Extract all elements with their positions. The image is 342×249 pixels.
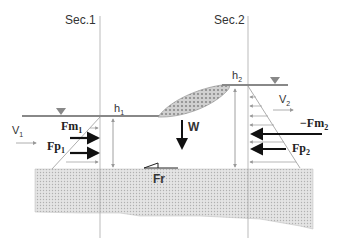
friction-label: Fr: [153, 172, 165, 186]
h2-label: h2: [232, 69, 242, 83]
fm2-label: −Fm2: [300, 116, 328, 132]
v1-label: V1: [12, 124, 23, 138]
pressure-diagram-2: [248, 86, 300, 168]
water-level-marker-2-icon: [270, 77, 280, 84]
channel-bed: [35, 169, 313, 229]
hydraulic-jump-diagram: Sec.1 Sec.2 h1 h2 V1 Fm1 Fp1: [0, 0, 342, 249]
section-1-label: Sec.1: [65, 13, 96, 27]
water-level-marker-1-icon: [56, 108, 66, 115]
h1-label: h1: [114, 102, 124, 116]
weight-label: W: [188, 120, 200, 134]
fm1-label: Fm1: [61, 119, 82, 135]
fp1-label: Fp1: [47, 139, 65, 155]
fp2-label: Fp2: [292, 141, 310, 157]
v2-label: V2: [279, 93, 290, 107]
section-2-label: Sec.2: [214, 13, 245, 27]
friction-arrow: [144, 163, 178, 168]
jump-roller: [158, 85, 229, 117]
